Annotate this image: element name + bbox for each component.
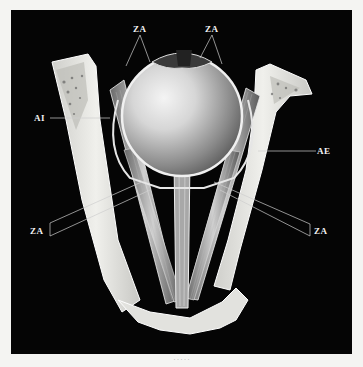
label-ae: AE bbox=[317, 146, 331, 156]
label-za-top-left: ZA bbox=[133, 24, 147, 34]
label-za-mid-right: ZA bbox=[314, 226, 328, 236]
label-ai: AI bbox=[34, 113, 45, 123]
label-za-mid-left: ZA bbox=[30, 226, 44, 236]
optic-nerve bbox=[174, 160, 190, 308]
anatomy-illustration bbox=[0, 0, 363, 367]
figure-caption: · · · · · bbox=[0, 357, 363, 367]
eyeball bbox=[122, 50, 242, 176]
label-za-top-right: ZA bbox=[205, 24, 219, 34]
